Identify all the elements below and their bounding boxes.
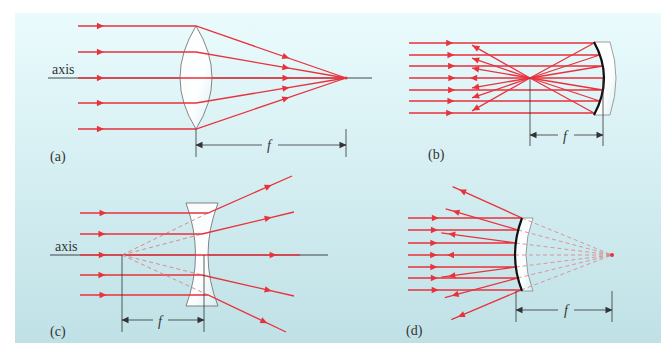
focal-point [345,77,348,80]
optics-diagram: axis (a) f (b) f axis (c) f (d) f [0,0,671,352]
panel-d-label: (d) [406,323,423,339]
virtual-focal-point [610,253,614,257]
panel-c-axis-label: axis [55,239,78,254]
panel-a-label: (a) [50,149,66,165]
panel-a-axis-label: axis [52,62,75,77]
diagram-background [15,13,661,343]
panel-c-label: (c) [50,324,66,340]
panel-b-label: (b) [428,147,445,163]
